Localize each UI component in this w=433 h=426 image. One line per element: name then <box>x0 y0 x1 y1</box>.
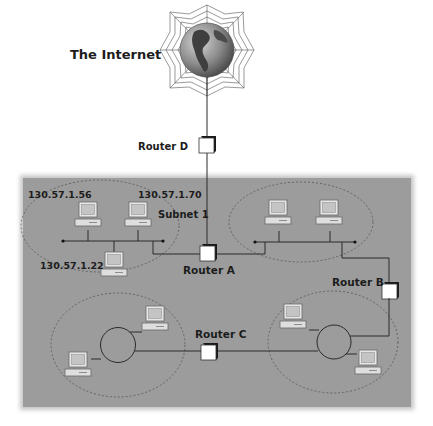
subnet-1-label: Subnet 1 <box>158 209 209 220</box>
router-c[interactable] <box>201 343 218 360</box>
host-subnet3-1[interactable] <box>142 306 168 330</box>
host-subnet4-1[interactable] <box>280 304 306 328</box>
router-d[interactable] <box>199 136 216 153</box>
globe-icon <box>180 23 234 77</box>
host-130-57-1-70[interactable] <box>125 202 151 226</box>
router-a-label: Router A <box>183 264 236 276</box>
host-130-57-1-22[interactable] <box>101 252 127 276</box>
router-b-label: Router B <box>332 276 384 288</box>
router-a[interactable] <box>200 244 217 261</box>
router-d-label: Router D <box>138 141 188 152</box>
internet-label: The Internet <box>70 47 161 62</box>
host-130-57-1-56[interactable] <box>75 202 101 226</box>
router-b[interactable] <box>382 282 399 299</box>
host-subnet4-2[interactable] <box>355 350 381 374</box>
diagram-canvas: The Internet Router D 130.57.1.56 130.57… <box>0 0 433 426</box>
network-diagram: The Internet Router D 130.57.1.56 130.57… <box>0 0 433 426</box>
ip-label-22: 130.57.1.22 <box>40 260 104 271</box>
host-subnet2-2[interactable] <box>316 200 342 224</box>
router-c-label: Router C <box>195 328 247 340</box>
ip-label-70: 130.57.1.70 <box>138 189 202 200</box>
host-subnet2-1[interactable] <box>265 200 291 224</box>
ip-label-56: 130.57.1.56 <box>28 189 92 200</box>
host-subnet3-2[interactable] <box>65 352 91 376</box>
